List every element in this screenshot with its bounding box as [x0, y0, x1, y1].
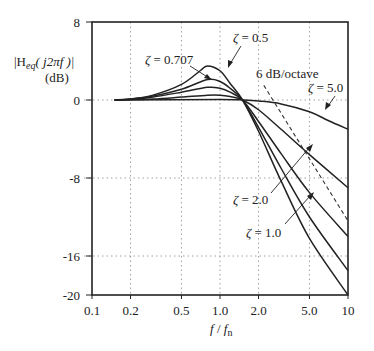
y-tick-label: -8	[69, 171, 80, 186]
series-0-707-line	[115, 79, 348, 271]
annotation-zeta-0707: ζ = 0.707	[145, 52, 194, 67]
y-axis-unit-label: (dB)	[45, 70, 69, 85]
x-axis-label: f / fn	[210, 321, 232, 338]
frequency-response-chart: 0.10.20.51.02.05.010 80-8-16-20 |Heq( j2…	[0, 0, 374, 351]
x-tick-label: 2.0	[250, 303, 266, 318]
annotation-zeta-2: ζ = 2.0	[233, 192, 268, 207]
x-tick-label: 0.1	[84, 303, 100, 318]
x-tick-label: 0.2	[122, 303, 138, 318]
series-2-0-line	[115, 95, 348, 188]
series-group	[115, 66, 348, 295]
series-5-0-line	[115, 100, 348, 130]
y-tick-label: -16	[63, 249, 81, 264]
x-tick-label: 0.5	[173, 303, 189, 318]
annotation-zeta-05: ζ = 0.5	[233, 30, 268, 45]
y-tick-label: 8	[74, 15, 81, 30]
arrow-zeta-05	[230, 46, 241, 64]
tick-marks	[86, 22, 348, 299]
arrow-zeta-1	[285, 196, 310, 224]
y-tick-label: 0	[74, 93, 81, 108]
annotation-zeta-1: ζ = 1.0	[246, 225, 281, 240]
annotation-zeta-5: ζ = 5.0	[308, 80, 343, 95]
series-1-0-line	[115, 87, 348, 236]
annotation-slope: 6 dB/octave	[256, 66, 319, 81]
x-tick-label: 5.0	[301, 303, 317, 318]
grid-lines	[84, 22, 348, 295]
x-tick-labels: 0.10.20.51.02.05.010	[84, 303, 355, 318]
y-axis-label: |Heq( j2πf )|	[14, 54, 74, 71]
x-tick-label: 1.0	[212, 303, 228, 318]
y-tick-label: -20	[63, 288, 80, 303]
arrowhead-zeta-05	[228, 60, 233, 68]
x-tick-label: 10	[342, 303, 355, 318]
